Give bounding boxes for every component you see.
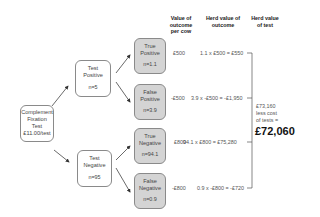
- summary-note: £73,160 less cost of tests =: [256, 103, 278, 124]
- true-negative-node: True Negative n=94.1: [134, 128, 166, 164]
- true-positive-line2: Positive: [135, 50, 165, 57]
- false-negative-line2: Negative: [135, 185, 165, 192]
- true-positive-node: True Positive n=1.1: [134, 38, 166, 74]
- false-positive-node: False Positive n=3.9: [134, 84, 166, 120]
- header-herd-value-test: Herd value of test: [250, 15, 280, 28]
- herd-value-false-negative: 0.9 x -£800 = -£720: [197, 185, 244, 191]
- false-negative-count: n=0.9: [135, 196, 165, 203]
- test-positive-node: Test Positive n=5: [75, 60, 111, 97]
- header-herd-value-outcome: Herd value of outcome: [205, 15, 241, 28]
- test-negative-line2: Negative: [78, 162, 111, 169]
- test-negative-node: Test Negative n=95: [77, 150, 112, 187]
- false-positive-count: n=3.9: [135, 107, 165, 114]
- root-complement-fixation-test: Complement Fixation Test £11.00/test: [20, 105, 54, 142]
- per-cow-true-positive: £500: [173, 50, 185, 56]
- test-positive-count: n=5: [76, 84, 110, 91]
- false-negative-node: False Negative n=0.9: [134, 173, 166, 209]
- test-positive-line2: Positive: [76, 72, 110, 79]
- root-line3: Test: [21, 123, 53, 130]
- false-positive-line2: Positive: [135, 96, 165, 103]
- summary-line3: of tests =: [256, 117, 278, 124]
- herd-value-true-positive: 1.1 x £500 = £550: [200, 50, 243, 56]
- per-cow-false-positive: -£500: [171, 95, 185, 101]
- true-negative-count: n=94.1: [135, 151, 165, 158]
- test-negative-count: n=95: [78, 174, 111, 181]
- true-negative-line2: Negative: [135, 140, 165, 147]
- root-line1: Complement: [21, 109, 53, 116]
- test-negative-line1: Test: [78, 155, 111, 162]
- per-cow-false-negative: -£800: [172, 185, 186, 191]
- summary-line1: £73,160: [256, 103, 278, 110]
- herd-value-test-total: £72,060: [255, 125, 295, 137]
- herd-value-false-positive: 3.9 x -£500 = -£1,950: [191, 95, 242, 101]
- header-value-per-cow: Value of outcome per cow: [166, 15, 196, 35]
- summary-line2: less cost: [256, 110, 278, 117]
- true-negative-line1: True: [135, 133, 165, 140]
- true-positive-line1: True: [135, 43, 165, 50]
- false-negative-line1: False: [135, 178, 165, 185]
- root-line4: £11.00/test: [21, 130, 53, 137]
- false-positive-line1: False: [135, 89, 165, 96]
- herd-value-true-negative: 94.1 x £800 = £75,280: [183, 139, 237, 145]
- test-positive-line1: Test: [76, 65, 110, 72]
- true-positive-count: n=1.1: [135, 61, 165, 68]
- root-line2: Fixation: [21, 116, 53, 123]
